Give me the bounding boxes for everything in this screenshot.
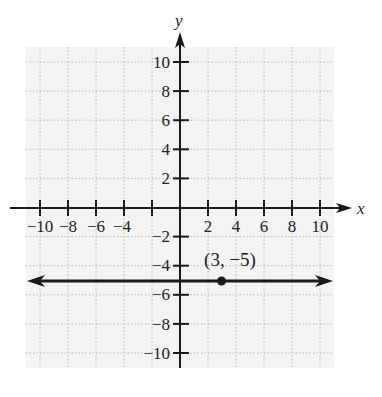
y-tick-label: −4 — [152, 256, 171, 275]
x-tick-label: −8 — [59, 217, 77, 236]
x-tick-label: 10 — [312, 217, 329, 236]
x-tick-label: −6 — [87, 217, 105, 236]
y-tick-label: −10 — [143, 344, 170, 363]
x-tick-label: 4 — [232, 217, 241, 236]
x-tick-label: 2 — [204, 217, 213, 236]
x-tick-label: −10 — [27, 217, 54, 236]
x-tick-label: −4 — [113, 217, 132, 236]
y-tick-label: 2 — [162, 169, 171, 188]
y-tick-label: −8 — [152, 315, 170, 334]
y-tick-label: 6 — [162, 111, 171, 130]
point-3-neg5 — [217, 277, 226, 286]
y-tick-label: −2 — [152, 227, 170, 246]
point-label: (3, −5) — [204, 249, 256, 271]
y-tick-label: 10 — [153, 53, 170, 72]
y-tick-label: 8 — [162, 82, 171, 101]
y-tick-label: 4 — [162, 140, 171, 159]
x-tick-label: 6 — [260, 217, 269, 236]
coordinate-plane: x y −10 −8 −6 −4 2 4 6 8 10 10 8 6 4 2 −… — [0, 0, 382, 397]
x-axis-label: x — [356, 199, 365, 218]
x-tick-label: 8 — [288, 217, 297, 236]
y-tick-label: −6 — [152, 285, 170, 304]
y-axis-label: y — [173, 11, 183, 30]
